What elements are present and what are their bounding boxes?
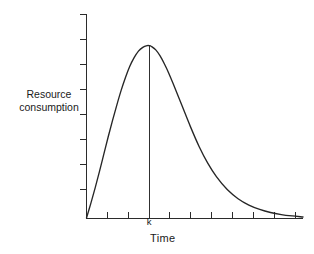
y-axis-label-line-2: consumption: [14, 101, 84, 114]
resource-consumption-curve: [87, 45, 304, 218]
y-axis-label: Resource consumption: [14, 88, 84, 114]
y-axis-label-line-1: Resource: [14, 88, 84, 101]
x-axis-label: Time: [150, 232, 176, 244]
chart-plot-area: [0, 0, 314, 254]
resource-consumption-chart: Resource consumption Time k: [0, 0, 314, 254]
peak-marker-label: k: [147, 216, 152, 227]
x-axis-ticks: [108, 212, 296, 218]
